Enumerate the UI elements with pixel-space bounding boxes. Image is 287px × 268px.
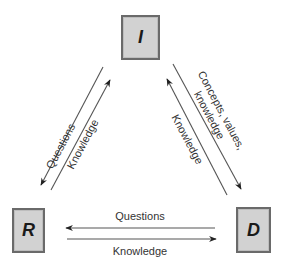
edge-d-to-i-label: Knowledge [169, 112, 205, 166]
edge-r-to-d-label: Knowledge [113, 245, 167, 257]
edge-d-to-r: Questions [66, 210, 215, 228]
diagram-arrows: Questions Knowledge Concepts, values, kn… [0, 0, 287, 268]
edge-r-to-d: Knowledge [67, 239, 216, 257]
edge-d-to-r-label: Questions [115, 210, 165, 222]
